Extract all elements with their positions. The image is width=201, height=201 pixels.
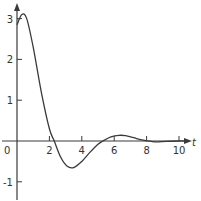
y-tick-label: 1 <box>7 95 13 106</box>
x-tick-label: 2 <box>46 145 52 156</box>
x-axis-arrow-icon <box>184 138 192 144</box>
origin-label: 0 <box>4 145 10 156</box>
data-curve <box>17 14 184 168</box>
series-line <box>17 14 184 168</box>
y-tick-label: -1 <box>3 177 13 188</box>
x-tick-label: 8 <box>143 145 149 156</box>
x-tick-label: 6 <box>111 145 117 156</box>
chart-canvas: 0246810-1123 t <box>0 0 201 201</box>
tick-marks: 0246810-1123 <box>3 14 185 188</box>
y-axis-arrow-icon <box>14 3 20 11</box>
y-tick-label: 2 <box>7 54 13 65</box>
x-tick-label: 4 <box>79 145 85 156</box>
line-chart: 0246810-1123 t <box>0 0 201 201</box>
x-tick-label: 10 <box>173 145 186 156</box>
y-tick-label: 3 <box>7 14 13 25</box>
x-axis-label: t <box>192 137 197 148</box>
